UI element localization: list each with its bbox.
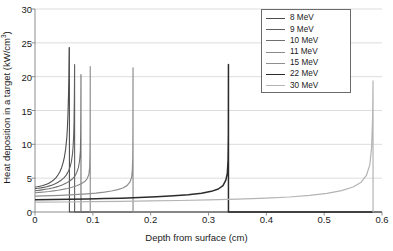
legend-item[interactable]: 22 MeV (266, 69, 344, 80)
legend-item[interactable]: 9 MeV (266, 24, 344, 35)
x-axis-title-text: Depth from surface (cm) (145, 232, 247, 243)
legend-item[interactable]: 15 MeV (266, 58, 344, 69)
legend-item-label: 11 MeV (290, 48, 318, 56)
legend-item-label: 22 MeV (290, 70, 318, 78)
legend-item[interactable]: 11 MeV (266, 47, 344, 58)
legend-item-label: 30 MeV (290, 82, 318, 90)
heat-deposition-chart: Heat deposition in a target (kW/cm3) 051… (0, 0, 393, 251)
legend-swatch-icon (266, 63, 285, 64)
legend-item-label: 8 MeV (290, 14, 314, 22)
legend-item[interactable]: 8 MeV (266, 13, 344, 24)
legend-swatch-icon (266, 85, 285, 86)
legend-swatch-icon (266, 40, 285, 41)
legend-item-label: 9 MeV (290, 26, 314, 34)
x-axis-title: Depth from surface (cm) (0, 232, 393, 243)
legend-item[interactable]: 10 MeV (266, 35, 344, 46)
legend-item-label: 10 MeV (290, 37, 318, 45)
legend-swatch-icon (266, 29, 285, 30)
legend-swatch-icon (266, 74, 285, 75)
chart-legend: 8 MeV9 MeV10 MeV11 MeV15 MeV22 MeV30 MeV (261, 9, 351, 93)
legend-item[interactable]: 30 MeV (266, 80, 344, 91)
legend-swatch-icon (266, 18, 285, 19)
legend-swatch-icon (266, 52, 285, 53)
legend-item-label: 15 MeV (290, 59, 318, 67)
